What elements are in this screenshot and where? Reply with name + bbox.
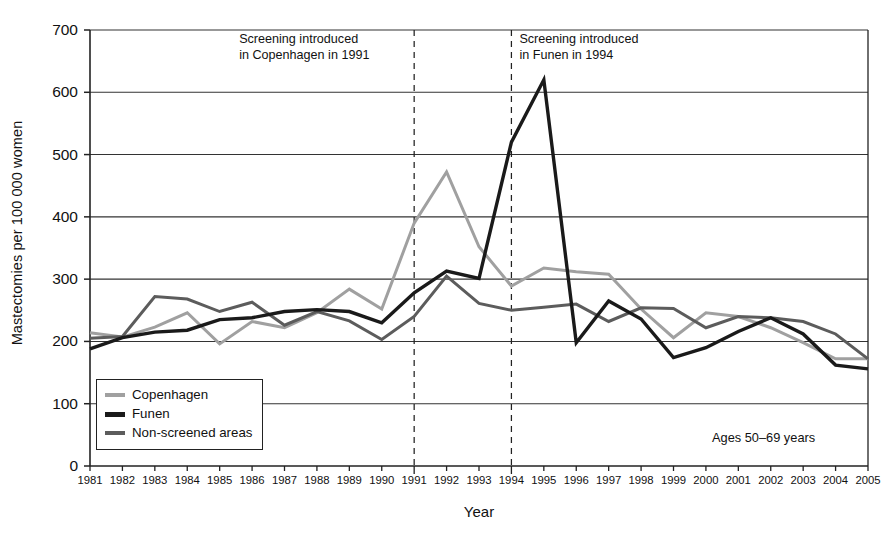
x-tick-label: 2005	[848, 474, 888, 486]
series-line-funen	[90, 80, 868, 369]
chart-legend: CopenhagenFunenNon-screened areas	[96, 379, 263, 450]
legend-swatch-icon	[105, 431, 125, 435]
legend-swatch-icon	[105, 412, 125, 417]
legend-swatch-icon	[105, 393, 125, 397]
y-tick-label: 300	[22, 271, 78, 287]
annotation-copenhagen: Screening introduced in Copenhagen in 19…	[239, 32, 407, 63]
y-tick-label: 100	[22, 396, 78, 412]
y-tick-label: 500	[22, 147, 78, 163]
chart-figure: Mastectomies per 100 000 women 010020030…	[0, 0, 891, 539]
y-tick-label: 400	[22, 209, 78, 225]
legend-item-non-screened-areas: Non-screened areas	[105, 424, 252, 443]
legend-item-funen: Funen	[105, 405, 252, 424]
annotation-ages: Ages 50–69 years	[712, 430, 815, 445]
plot-canvas	[0, 0, 891, 539]
y-tick-label: 200	[22, 333, 78, 349]
annotation-funen: Screening introduced in Funen in 1994	[519, 32, 719, 63]
legend-item-copenhagen: Copenhagen	[105, 386, 252, 405]
legend-label: Copenhagen	[132, 386, 208, 405]
y-tick-label: 700	[22, 22, 78, 38]
x-axis-title: Year	[90, 503, 868, 520]
y-tick-label: 600	[22, 84, 78, 100]
y-tick-label: 0	[22, 458, 78, 474]
legend-label: Funen	[132, 405, 170, 424]
series-line-non-screened-areas	[90, 276, 868, 359]
legend-label: Non-screened areas	[132, 424, 252, 443]
series-line-copenhagen	[90, 172, 868, 359]
